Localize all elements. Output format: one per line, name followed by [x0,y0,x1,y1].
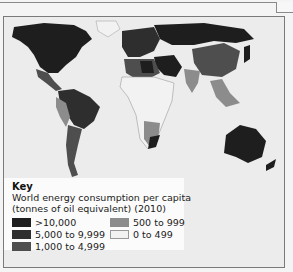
map-legend: Key World energy consumption per capita … [4,178,184,250]
region-australia [224,125,266,163]
legend-label: 0 to 499 [133,229,173,240]
region-russia [154,23,254,45]
legend-item-1000-4999: 1,000 to 4,999 [12,241,105,252]
legend-swatch [110,230,129,239]
legend-subtitle-line1: World energy consumption per capita [12,192,191,203]
region-greenland [96,21,120,37]
legend-label: >10,000 [35,217,76,228]
region-india [184,69,200,93]
legend-swatch [12,242,31,251]
region-europe [122,27,160,57]
legend-item-over-10000: >10,000 [12,217,76,228]
region-southeast-asia [210,79,240,107]
top-rule [0,2,278,3]
region-libya [140,61,154,73]
legend-swatch [12,230,31,239]
region-south-america-south [66,125,82,177]
region-japan [244,45,250,63]
legend-swatch [110,218,129,227]
legend-label: 1,000 to 4,999 [35,241,105,252]
legend-swatch [12,218,31,227]
legend-subtitle: World energy consumption per capita (ton… [12,192,191,214]
legend-label: 500 to 999 [133,217,185,228]
top-tab [276,2,293,13]
legend-item-0-499: 0 to 499 [110,229,173,240]
legend-label: 5,000 to 9,999 [35,229,105,240]
region-north-america [12,23,92,73]
legend-title: Key [12,181,33,192]
legend-item-500-999: 500 to 999 [110,217,185,228]
legend-item-5000-9999: 5,000 to 9,999 [12,229,105,240]
region-new-zealand [266,159,276,171]
legend-subtitle-line2: (tonnes of oil equivalent) (2010) [12,203,191,214]
